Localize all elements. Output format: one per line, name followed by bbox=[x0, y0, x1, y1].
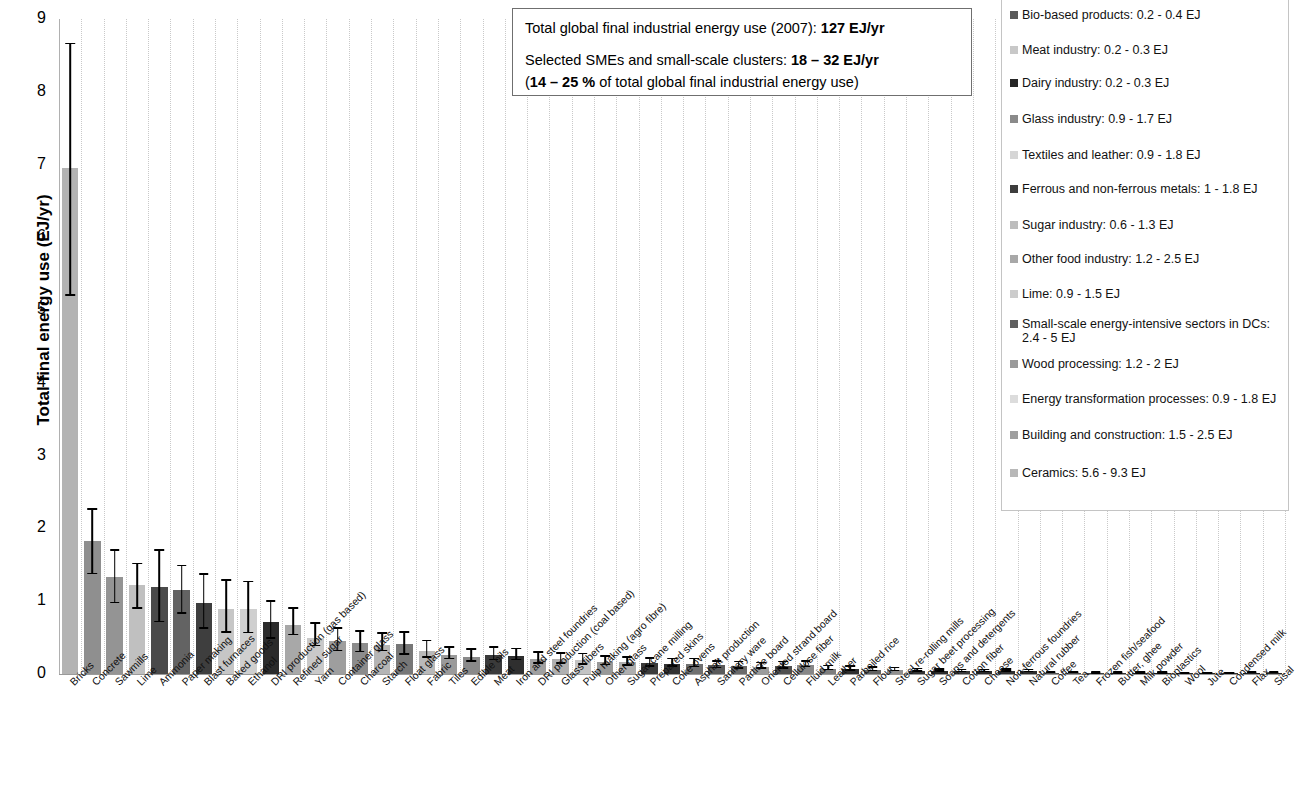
bar-group[interactable] bbox=[329, 19, 345, 674]
error-bar-cap-high bbox=[199, 573, 209, 575]
legend-item-label: Glass industry: 0.9 - 1.7 EJ bbox=[1022, 112, 1172, 126]
legend-swatch-icon bbox=[1010, 290, 1018, 298]
bar-group[interactable] bbox=[485, 19, 501, 674]
bar-group[interactable] bbox=[731, 19, 747, 674]
bar-group[interactable] bbox=[352, 19, 368, 674]
legend-swatch-icon bbox=[1010, 221, 1018, 229]
bar-group[interactable] bbox=[196, 19, 212, 674]
gridline bbox=[995, 19, 996, 674]
error-bar-cap-high bbox=[288, 607, 298, 609]
bar-group[interactable] bbox=[396, 19, 412, 674]
bar-group[interactable] bbox=[106, 19, 122, 674]
legend-swatch-icon bbox=[1010, 151, 1018, 159]
legend-item[interactable]: Other food industry: 1.2 - 2.5 EJ bbox=[1010, 252, 1286, 266]
error-bar-cap-high bbox=[132, 563, 142, 565]
gridline bbox=[126, 19, 127, 674]
bar-group[interactable] bbox=[797, 19, 813, 674]
legend-item[interactable]: Textiles and leather: 0.9 - 1.8 EJ bbox=[1010, 148, 1286, 162]
bar-group[interactable] bbox=[864, 19, 880, 674]
bar-group[interactable] bbox=[909, 19, 925, 674]
error-bar-cap-low bbox=[511, 659, 521, 661]
bar-group[interactable] bbox=[218, 19, 234, 674]
callout-line-1-text: Total global final industrial energy use… bbox=[525, 20, 821, 36]
bar-group[interactable] bbox=[976, 19, 992, 674]
legend-item-label: Small-scale energy-intensive sectors in … bbox=[1022, 317, 1286, 345]
bar-group[interactable] bbox=[954, 19, 970, 674]
gridline bbox=[817, 19, 818, 674]
bar-group[interactable] bbox=[686, 19, 702, 674]
bar-group[interactable] bbox=[463, 19, 479, 674]
gridline bbox=[928, 19, 929, 674]
bar-group[interactable] bbox=[419, 19, 435, 674]
bar-group[interactable] bbox=[84, 19, 100, 674]
error-bar-whisker bbox=[225, 581, 227, 633]
legend-item[interactable]: Ferrous and non-ferrous metals: 1 - 1.8 … bbox=[1010, 182, 1286, 196]
bar-group[interactable] bbox=[285, 19, 301, 674]
error-bar-whisker bbox=[181, 566, 183, 613]
legend-item[interactable]: Bio-based products: 0.2 - 0.4 EJ bbox=[1010, 8, 1286, 22]
gridline bbox=[772, 19, 773, 674]
bar-group[interactable] bbox=[151, 19, 167, 674]
legend-item[interactable]: Lime: 0.9 - 1.5 EJ bbox=[1010, 287, 1286, 301]
gridline bbox=[393, 19, 394, 674]
legend-item[interactable]: Sugar industry: 0.6 - 1.3 EJ bbox=[1010, 218, 1286, 232]
legend-item[interactable]: Glass industry: 0.9 - 1.7 EJ bbox=[1010, 112, 1286, 126]
legend-item-label: Energy transformation processes: 0.9 - 1… bbox=[1022, 392, 1276, 406]
bar-group[interactable] bbox=[374, 19, 390, 674]
y-axis-tick-label: 2 bbox=[24, 519, 46, 535]
error-bar-cap-low bbox=[110, 602, 120, 604]
error-bar-cap-high bbox=[221, 579, 231, 581]
error-bar-cap-high bbox=[155, 549, 165, 551]
bar-group[interactable] bbox=[619, 19, 635, 674]
legend-item[interactable]: Meat industry: 0.2 - 0.3 EJ bbox=[1010, 43, 1286, 57]
y-axis-tick-label: 8 bbox=[24, 83, 46, 99]
bar-group[interactable] bbox=[820, 19, 836, 674]
bar-group[interactable] bbox=[263, 19, 279, 674]
bar-group[interactable] bbox=[441, 19, 457, 674]
bar-group[interactable] bbox=[753, 19, 769, 674]
bar-group[interactable] bbox=[552, 19, 568, 674]
gridline bbox=[549, 19, 550, 674]
bar-group[interactable] bbox=[775, 19, 791, 674]
legend-swatch-icon bbox=[1010, 469, 1018, 477]
gridline bbox=[861, 19, 862, 674]
bar-group[interactable] bbox=[62, 19, 78, 674]
bar-group[interactable] bbox=[240, 19, 256, 674]
legend-item[interactable]: Dairy industry: 0.2 - 0.3 EJ bbox=[1010, 76, 1286, 90]
bar-group[interactable] bbox=[173, 19, 189, 674]
legend-item-label: Wood processing: 1.2 - 2 EJ bbox=[1022, 357, 1179, 371]
error-bar-whisker bbox=[292, 609, 294, 636]
bar-group[interactable] bbox=[575, 19, 591, 674]
callout-line-1: Total global final industrial energy use… bbox=[525, 17, 961, 39]
legend-item[interactable]: Building and construction: 1.5 - 2.5 EJ bbox=[1010, 428, 1286, 442]
bar-group[interactable] bbox=[508, 19, 524, 674]
legend-swatch-icon bbox=[1010, 320, 1018, 328]
bar-group[interactable] bbox=[708, 19, 724, 674]
error-bar-whisker bbox=[114, 551, 116, 603]
bar-group[interactable] bbox=[931, 19, 947, 674]
legend-swatch-icon bbox=[1010, 79, 1018, 87]
bar-group[interactable] bbox=[842, 19, 858, 674]
callout-line-1-value: 127 EJ/yr bbox=[821, 20, 885, 36]
gridline bbox=[527, 19, 528, 674]
legend-item[interactable]: Ceramics: 5.6 - 9.3 EJ bbox=[1010, 466, 1286, 480]
bar-group[interactable] bbox=[129, 19, 145, 674]
bar-group[interactable] bbox=[641, 19, 657, 674]
error-bar-whisker bbox=[92, 510, 94, 575]
gridline bbox=[505, 19, 506, 674]
bar-group[interactable] bbox=[887, 19, 903, 674]
legend-item[interactable]: Wood processing: 1.2 - 2 EJ bbox=[1010, 357, 1286, 371]
error-bar-cap-high bbox=[444, 646, 454, 648]
bar-group[interactable] bbox=[664, 19, 680, 674]
gridline bbox=[148, 19, 149, 674]
legend-item[interactable]: Small-scale energy-intensive sectors in … bbox=[1010, 317, 1286, 345]
error-bar-cap-high bbox=[511, 648, 521, 650]
error-bar-cap-high bbox=[88, 508, 98, 510]
bar-group[interactable] bbox=[530, 19, 546, 674]
bar-group[interactable] bbox=[597, 19, 613, 674]
bar-group[interactable] bbox=[307, 19, 323, 674]
error-bar-cap-high bbox=[244, 581, 254, 583]
legend-item[interactable]: Energy transformation processes: 0.9 - 1… bbox=[1010, 392, 1286, 406]
error-bar-cap-high bbox=[266, 600, 276, 602]
error-bar-whisker bbox=[404, 633, 406, 656]
